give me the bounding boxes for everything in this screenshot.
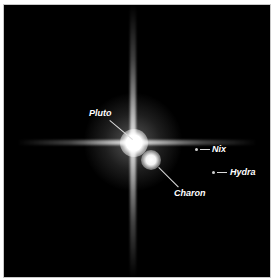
leader-line-hydra [217, 172, 227, 173]
label-charon: Charon [174, 188, 206, 198]
label-hydra: Hydra [230, 167, 256, 177]
pluto-system-image: Pluto Charon Nix Hydra [3, 4, 271, 278]
hydra-dot [212, 171, 215, 174]
label-pluto: Pluto [89, 108, 112, 118]
label-nix: Nix [212, 144, 226, 154]
nix-dot [195, 148, 198, 151]
leader-line-nix [200, 149, 210, 150]
